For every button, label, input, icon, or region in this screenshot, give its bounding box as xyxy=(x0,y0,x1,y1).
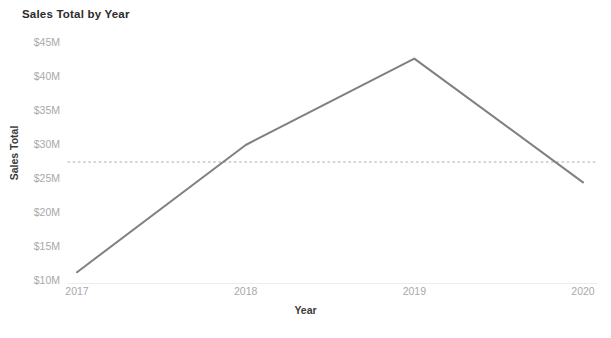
series-line-sales-total[interactable] xyxy=(77,59,583,273)
plot-area xyxy=(0,0,611,338)
chart-container: Sales Total by Year Sales Total Year $10… xyxy=(0,0,611,338)
